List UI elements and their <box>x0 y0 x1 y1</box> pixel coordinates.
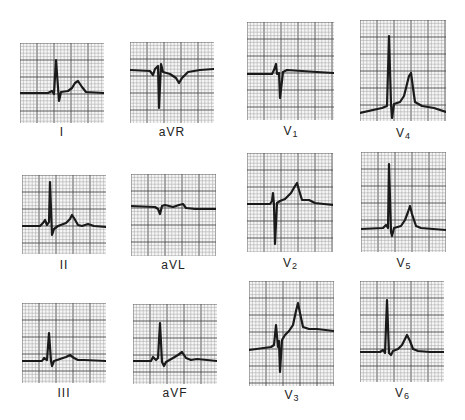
lead-label: V6 <box>352 386 452 401</box>
lead-label: aVL <box>124 258 224 272</box>
lead-label: V3 <box>242 388 342 403</box>
ecg-strip <box>360 281 444 382</box>
ecg-strip <box>22 175 106 254</box>
ecg-strip <box>360 20 446 121</box>
ecg-trace <box>361 164 446 236</box>
ecg-strip <box>247 22 334 120</box>
ecg-strip <box>249 281 334 386</box>
lead-label: V1 <box>241 124 341 139</box>
ecg-strip <box>22 303 106 383</box>
ecg-trace <box>360 36 446 118</box>
ecg-trace <box>131 204 216 214</box>
lead-label: V5 <box>354 256 454 271</box>
ecg-trace <box>249 303 334 372</box>
ecg-strip <box>130 42 214 123</box>
lead-label: I <box>12 125 112 139</box>
lead-label: II <box>14 258 114 272</box>
ecg-strip <box>133 304 217 384</box>
ecg-strip <box>247 153 333 252</box>
lead-label: III <box>14 386 114 400</box>
ecg-strip <box>361 152 446 252</box>
lead-label: V2 <box>240 256 340 271</box>
ecg-strip <box>131 174 216 256</box>
ecg-trace <box>247 183 333 244</box>
lead-label: V4 <box>353 126 453 141</box>
ecg-strip <box>20 43 104 123</box>
lead-label: aVF <box>125 386 225 400</box>
ecg-trace <box>247 64 334 98</box>
lead-label: aVR <box>122 125 222 139</box>
